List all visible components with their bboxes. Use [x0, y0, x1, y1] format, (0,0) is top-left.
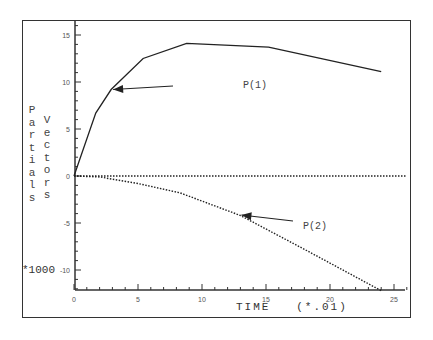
svg-text:15: 15	[62, 32, 70, 39]
svg-text:-10: -10	[60, 267, 70, 274]
series-p2	[74, 176, 381, 291]
x-axis-title: TIME (*.01)	[236, 301, 348, 313]
svg-text:10: 10	[62, 79, 70, 86]
svg-text:5: 5	[136, 296, 140, 303]
annotation-p2: P(2)	[303, 221, 327, 232]
svg-text:25: 25	[390, 296, 398, 303]
y-multiplier-label: *1000	[22, 264, 55, 276]
svg-text:10: 10	[198, 296, 206, 303]
plot-area: 151050-5-100510152025	[0, 0, 433, 340]
series-p1	[74, 43, 381, 176]
annotation-p1: P(1)	[243, 80, 267, 91]
svg-text:0: 0	[72, 296, 76, 303]
svg-text:-5: -5	[64, 220, 70, 227]
svg-text:0: 0	[66, 173, 70, 180]
svg-text:5: 5	[66, 126, 70, 133]
